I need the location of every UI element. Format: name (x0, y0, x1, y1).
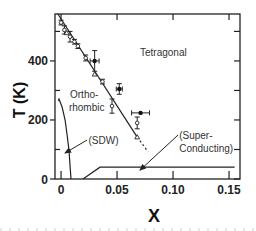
superconducting-label-line1: (Super- (179, 130, 212, 141)
y-tick-label: 400 (28, 54, 48, 68)
open-circle-marker (101, 80, 105, 84)
open-circle-marker (59, 21, 63, 25)
x-tick-label: 0.10 (161, 183, 185, 197)
x-tick-label: 0.15 (217, 183, 241, 197)
orthorhombic-label-line1: Ortho- (70, 89, 98, 100)
sdw-label: (SDW) (88, 135, 118, 146)
open-circle-marker (135, 121, 139, 125)
x-axis-title: X (148, 206, 160, 226)
orthorhombic-label-line2: rhombic (69, 102, 105, 113)
open-circle-marker (73, 40, 77, 44)
y-tick-label: 0 (41, 173, 48, 187)
x-tick-label: 0 (58, 183, 65, 197)
superconducting-label-line2: Conducting) (179, 143, 233, 154)
filled-circle-marker (117, 87, 121, 91)
y-axis-title: T (K) (11, 82, 28, 118)
tetragonal-label: Tetragonal (140, 47, 187, 58)
y-tick-label: 200 (28, 113, 48, 127)
open-circle-marker (63, 28, 67, 32)
open-circle-marker (76, 44, 80, 48)
open-circle-marker (110, 104, 114, 108)
phase-diagram-chart: TetragonalOrtho-rhombic(SDW)(Super-Condu… (0, 0, 256, 231)
open-circle-marker (84, 56, 88, 60)
cropped-caption-text (0, 228, 256, 231)
filled-circle-marker (138, 111, 142, 115)
filled-circle-marker (92, 59, 96, 63)
open-circle-marker (68, 35, 72, 39)
x-tick-label: 0.05 (105, 183, 129, 197)
